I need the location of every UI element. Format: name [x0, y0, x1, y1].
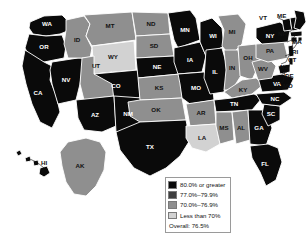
callout-label-CT: CT — [288, 56, 296, 63]
state-label-NE: NE — [153, 63, 162, 70]
state-label-GA: GA — [254, 124, 264, 131]
state-label-SD: SD — [150, 42, 159, 49]
us-states-map: WA OR CA NV AZ NM CO UT ID MT WY ND SD N… — [0, 0, 308, 239]
state-label-FL: FL — [261, 160, 269, 167]
legend-label-2: 70.0%–76.9% — [180, 200, 218, 210]
state-label-CO: CO — [111, 82, 120, 89]
state-label-MT: MT — [106, 22, 115, 29]
callout-label-HI: HI — [41, 159, 47, 166]
callout-label-MD: MD — [283, 82, 293, 89]
state-label-OR: OR — [39, 43, 49, 50]
state-label-MS: MS — [219, 124, 228, 131]
state-label-PA: PA — [266, 47, 275, 54]
callout-label-DE: DE — [285, 72, 294, 79]
state-label-UT: UT — [92, 62, 100, 69]
state-label-IN: IN — [229, 64, 236, 71]
us-choropleth-map-figure: WA OR CA NV AZ NM CO UT ID MT WY ND SD N… — [0, 0, 308, 239]
state-label-CA: CA — [34, 89, 43, 96]
legend-label-1: 77.0%–79.9% — [180, 190, 218, 200]
map-legend: 80.0% or greater 77.0%–79.9% 70.0%–76.9%… — [165, 177, 231, 233]
state-label-NV: NV — [62, 76, 71, 83]
legend-item-2[interactable]: 70.0%–76.9% — [168, 200, 227, 210]
state-label-MN: MN — [180, 26, 190, 33]
state-HI-4[interactable] — [39, 166, 50, 177]
state-label-AR: AR — [197, 109, 206, 116]
state-label-ND: ND — [147, 20, 156, 27]
legend-label-0: 80.0% or greater — [180, 180, 225, 190]
state-label-WI: WI — [209, 32, 217, 39]
state-label-ID: ID — [74, 36, 81, 43]
state-label-TN: TN — [230, 100, 239, 107]
callout-label-RI: RI — [292, 48, 298, 55]
legend-item-3[interactable]: Less than 70% — [168, 211, 227, 221]
state-label-AL: AL — [237, 124, 245, 131]
state-MT[interactable] — [84, 12, 136, 46]
state-label-IA: IA — [187, 56, 194, 63]
legend-item-1[interactable]: 77.0%–79.9% — [168, 190, 227, 200]
callout-label-NJ: NJ — [280, 63, 288, 70]
callout-label-VT: VT — [259, 14, 267, 21]
state-label-WV: WV — [258, 65, 269, 72]
legend-swatch-0 — [168, 181, 177, 189]
state-label-MO: MO — [191, 84, 201, 91]
state-ME[interactable] — [294, 10, 306, 30]
map-canvas: WA OR CA NV AZ NM CO UT ID MT WY ND SD N… — [0, 0, 308, 239]
state-label-NM: NM — [123, 110, 133, 117]
state-HI-1[interactable] — [16, 150, 22, 156]
state-label-OH: OH — [243, 54, 253, 61]
state-label-NC: NC — [271, 95, 280, 102]
callout-label-NH: NH — [278, 30, 287, 37]
legend-swatch-3 — [168, 212, 177, 220]
state-label-KY: KY — [239, 86, 248, 93]
legend-swatch-2 — [168, 201, 177, 209]
state-label-LA: LA — [198, 134, 207, 141]
state-label-KS: KS — [155, 84, 164, 91]
callout-label-ME: ME — [277, 12, 286, 19]
state-label-IL: IL — [212, 68, 218, 75]
state-label-MI: MI — [229, 28, 236, 35]
state-label-WY: WY — [108, 53, 119, 60]
state-label-SC: SC — [267, 110, 276, 117]
legend-swatch-1 — [168, 191, 177, 199]
state-label-AK: AK — [76, 162, 85, 169]
state-label-TX: TX — [146, 143, 155, 150]
state-label-OK: OK — [151, 106, 161, 113]
state-label-NY: NY — [266, 32, 275, 39]
state-label-AZ: AZ — [91, 111, 99, 118]
legend-overall-value: Overall: 76.5% — [168, 221, 227, 231]
state-label-WA: WA — [42, 20, 52, 27]
legend-label-3: Less than 70% — [180, 211, 220, 221]
legend-item-0[interactable]: 80.0% or greater — [168, 180, 227, 190]
